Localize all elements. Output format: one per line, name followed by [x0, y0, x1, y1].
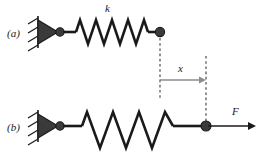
panel-b-label: (b) — [7, 121, 20, 134]
anchor-node-b — [56, 122, 64, 130]
spring-force-figure: (a) k — [0, 0, 264, 156]
anchor-node-a — [56, 28, 64, 36]
free-end-node-a — [155, 27, 164, 36]
panel-a-label: (a) — [7, 27, 20, 40]
force-label: F — [231, 105, 239, 117]
displacement-label: x — [177, 62, 183, 74]
spring-diagram-canvas: (a) k — [0, 0, 264, 156]
